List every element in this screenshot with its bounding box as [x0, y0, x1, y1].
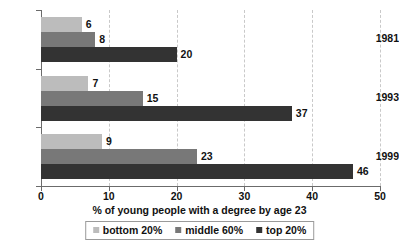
- bar: [41, 91, 143, 106]
- x-tick-label: 10: [103, 190, 115, 202]
- bar-value-label: 8: [99, 32, 105, 47]
- category-label: 1981: [365, 32, 399, 44]
- bar: [41, 32, 95, 47]
- gridline: [312, 10, 313, 186]
- category-label: 1993: [365, 91, 399, 103]
- legend-item-middle-60: middle 60%: [175, 224, 243, 236]
- legend-item-label: top 20%: [266, 224, 306, 236]
- bar-value-label: 6: [86, 17, 92, 32]
- bar-value-label: 15: [147, 91, 159, 106]
- bar-value-label: 37: [296, 106, 308, 121]
- bar-value-label: 23: [201, 149, 213, 164]
- y-axis-tick: [36, 127, 41, 128]
- x-tick-label: 50: [374, 190, 386, 202]
- bar-value-label: 9: [106, 134, 112, 149]
- bar: [41, 76, 88, 91]
- x-axis-line: [41, 186, 381, 187]
- bar-value-label: 20: [181, 47, 193, 62]
- x-tick-label: 0: [38, 190, 44, 202]
- chart-legend: bottom 20% middle 60% top 20%: [85, 221, 315, 240]
- legend-item-label: bottom 20%: [103, 224, 163, 236]
- legend-swatch-icon: [175, 227, 181, 233]
- bar: [41, 17, 82, 32]
- bar-value-label: 7: [92, 76, 98, 91]
- legend-item-bottom-20: bottom 20%: [93, 224, 163, 236]
- x-tick-label: 40: [306, 190, 318, 202]
- bar-value-label: 46: [357, 164, 369, 179]
- legend-item-top-20: top 20%: [256, 224, 306, 236]
- legend-swatch-icon: [256, 227, 262, 233]
- x-tick-label: 30: [239, 190, 251, 202]
- gridline: [244, 10, 245, 186]
- legend-item-label: middle 60%: [185, 224, 243, 236]
- bar: [41, 106, 292, 121]
- bar: [41, 134, 102, 149]
- bar: [41, 47, 177, 62]
- y-axis-tick: [36, 10, 41, 11]
- legend-swatch-icon: [93, 227, 99, 233]
- x-tick-label: 20: [171, 190, 183, 202]
- x-axis-title: % of young people with a degree by age 2…: [0, 204, 399, 216]
- bar: [41, 164, 353, 179]
- category-label: 1999: [365, 150, 399, 162]
- bar: [41, 149, 197, 164]
- y-axis-tick: [36, 69, 41, 70]
- bar-chart: 198119931999 68207153792346 01020304050 …: [0, 0, 399, 251]
